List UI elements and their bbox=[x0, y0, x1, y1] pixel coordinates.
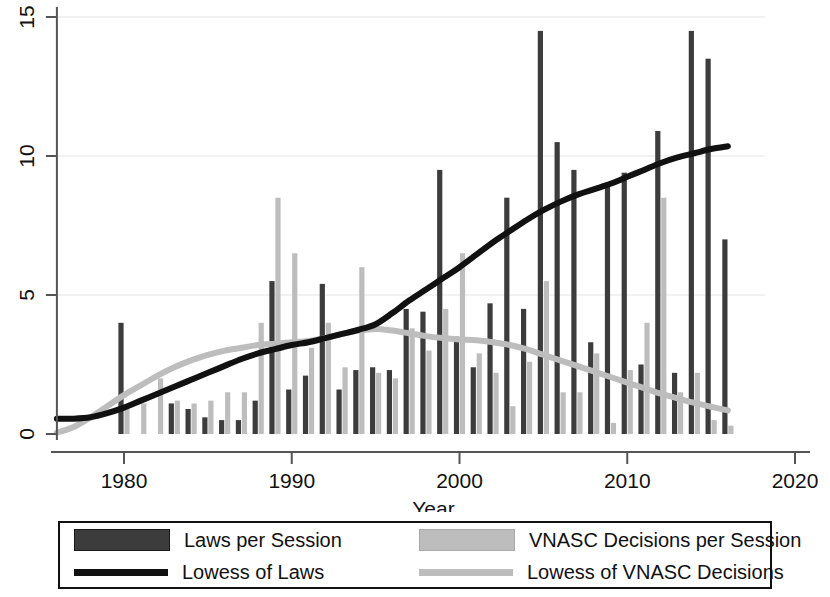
bar bbox=[538, 31, 543, 434]
legend-label: VNASC Decisions per Session bbox=[529, 530, 801, 550]
bar bbox=[253, 401, 258, 434]
bar bbox=[393, 378, 398, 434]
bar bbox=[202, 417, 207, 434]
bar bbox=[638, 365, 643, 435]
bar bbox=[521, 309, 526, 434]
bar bbox=[353, 370, 358, 434]
y-tick-label: 15 bbox=[15, 5, 38, 28]
bar bbox=[158, 378, 163, 434]
chart-legend: Laws per Session VNASC Decisions per Ses… bbox=[58, 521, 772, 589]
legend-swatch-line-light-icon bbox=[419, 569, 513, 576]
bar bbox=[672, 373, 677, 434]
legend-item-lowess-of-laws: Lowess of Laws bbox=[60, 562, 405, 582]
bar bbox=[236, 420, 241, 434]
bar bbox=[359, 267, 364, 434]
bar bbox=[192, 403, 197, 434]
bar bbox=[594, 353, 599, 434]
bar bbox=[628, 370, 633, 434]
bar bbox=[644, 323, 649, 434]
bar bbox=[376, 373, 381, 434]
x-axis-title: Year bbox=[412, 497, 454, 512]
bar bbox=[471, 367, 476, 434]
bar bbox=[437, 170, 442, 434]
bar bbox=[342, 367, 347, 434]
bar bbox=[175, 401, 180, 434]
x-tick-label: 2000 bbox=[436, 469, 483, 492]
x-tick-label: 2020 bbox=[772, 469, 819, 492]
chart-svg: 05101519801990200020102020 Year bbox=[0, 0, 830, 512]
legend-swatch-bar-dark-icon bbox=[74, 529, 170, 551]
bar bbox=[712, 420, 717, 434]
bar bbox=[689, 31, 694, 434]
bar bbox=[454, 337, 459, 434]
bar bbox=[493, 373, 498, 434]
bar bbox=[706, 59, 711, 434]
bar bbox=[477, 353, 482, 434]
bar bbox=[141, 403, 146, 434]
bar bbox=[169, 403, 174, 434]
bar bbox=[275, 198, 280, 434]
bar bbox=[577, 392, 582, 434]
bar bbox=[443, 309, 448, 434]
bar bbox=[410, 328, 415, 434]
x-tick-label: 1990 bbox=[268, 469, 315, 492]
bar bbox=[387, 370, 392, 434]
bar bbox=[124, 409, 129, 434]
bar bbox=[605, 187, 610, 434]
bar bbox=[571, 170, 576, 434]
bar bbox=[242, 392, 247, 434]
bar bbox=[527, 362, 532, 434]
chart-plot-area: 05101519801990200020102020 Year bbox=[0, 0, 830, 512]
bar bbox=[426, 351, 431, 434]
bar bbox=[728, 426, 733, 434]
bar bbox=[588, 342, 593, 434]
legend-swatch-line-dark-icon bbox=[74, 569, 168, 576]
bar bbox=[336, 390, 341, 434]
bar bbox=[309, 348, 314, 434]
y-tick-label: 5 bbox=[15, 289, 38, 301]
y-tick-label: 10 bbox=[15, 144, 38, 167]
legend-label: Laws per Session bbox=[184, 530, 342, 550]
bar bbox=[208, 401, 213, 434]
bar bbox=[320, 284, 325, 434]
bar bbox=[661, 198, 666, 434]
line-series-group bbox=[57, 146, 728, 432]
x-tick-label: 2010 bbox=[604, 469, 651, 492]
axis-titles: Year bbox=[412, 497, 454, 512]
bar bbox=[460, 253, 465, 434]
bar bbox=[286, 390, 291, 434]
bar bbox=[370, 367, 375, 434]
bar bbox=[303, 376, 308, 434]
bar bbox=[219, 420, 224, 434]
legend-item-vnasc-decisions-per-session: VNASC Decisions per Session bbox=[405, 529, 774, 551]
bar bbox=[622, 173, 627, 434]
y-tick-label: 0 bbox=[15, 428, 38, 440]
legend-item-laws-per-session: Laws per Session bbox=[60, 529, 405, 551]
bar bbox=[259, 323, 264, 434]
bar bbox=[404, 309, 409, 434]
bar bbox=[420, 312, 425, 434]
bar bbox=[487, 303, 492, 434]
bar bbox=[655, 131, 660, 434]
chart-page: 05101519801990200020102020 Year Laws per… bbox=[0, 0, 830, 597]
legend-item-lowess-of-vnasc-decisions: Lowess of VNASC Decisions bbox=[405, 562, 774, 582]
legend-label: Lowess of VNASC Decisions bbox=[527, 562, 784, 582]
lowess-line bbox=[57, 329, 728, 433]
bar bbox=[722, 239, 727, 434]
bar bbox=[225, 392, 230, 434]
bar bbox=[269, 281, 274, 434]
bar bbox=[118, 323, 123, 434]
x-tick-label: 1980 bbox=[101, 469, 148, 492]
bar bbox=[510, 406, 515, 434]
bar bbox=[186, 409, 191, 434]
bar bbox=[611, 423, 616, 434]
legend-label: Lowess of Laws bbox=[182, 562, 324, 582]
bar bbox=[561, 392, 566, 434]
legend-swatch-bar-light-icon bbox=[419, 529, 515, 551]
bar bbox=[555, 142, 560, 434]
